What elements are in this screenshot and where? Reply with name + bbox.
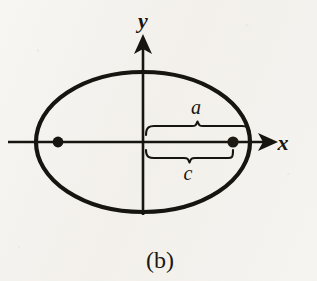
measure-label-a: a	[191, 96, 201, 118]
left-focus-dot	[53, 137, 64, 148]
figure-ellipse-foci: x y a c (b)	[0, 0, 317, 281]
brace-c-path	[146, 150, 233, 163]
brace-a	[146, 122, 250, 136]
ellipse-diagram-canvas: x y a c (b)	[0, 0, 317, 281]
right-focus-dot	[227, 136, 238, 147]
x-axis-label: x	[277, 130, 289, 155]
y-axis-label: y	[135, 8, 148, 33]
brace-c	[146, 150, 233, 163]
measure-label-c: c	[184, 162, 193, 184]
brace-a-path	[146, 122, 250, 136]
y-axis	[134, 34, 152, 215]
figure-caption: (b)	[146, 247, 174, 273]
